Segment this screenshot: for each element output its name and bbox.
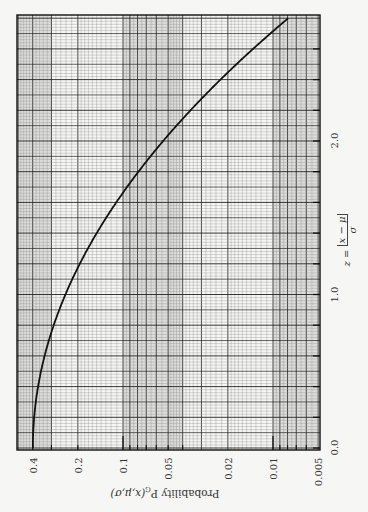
chart-canvas [0,0,368,512]
prob-tick-label: 0.4 [27,458,38,494]
z-tick-label: 2.0 [329,131,340,151]
prob-tick-label: 0.005 [313,458,324,494]
ylabel-args: (x,μ,σ) [110,488,145,500]
z-tick-label: 1.0 [329,284,340,304]
ylabel-main: Probability P [151,488,220,500]
prob-tick-label: 0.2 [72,458,83,494]
shade-band [18,15,51,450]
ylabel-sub: G [145,485,151,493]
prob-tick-label: 0.01 [268,458,279,494]
probability-axis-label: Probability PG(x,μ,σ) [95,485,235,500]
xlabel-fraction: x − μ σ [337,214,357,247]
z-tick-label: 0.0 [329,438,340,458]
xlabel-denominator: σ [348,214,357,247]
z-axis-label: z = x − μ σ [337,208,355,272]
xlabel-lhs: z = [341,250,352,267]
